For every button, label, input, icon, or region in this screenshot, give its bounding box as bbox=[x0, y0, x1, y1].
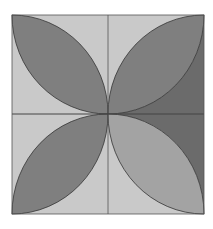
petal-square-diagram bbox=[0, 0, 213, 229]
